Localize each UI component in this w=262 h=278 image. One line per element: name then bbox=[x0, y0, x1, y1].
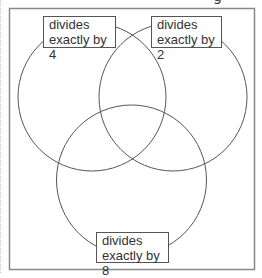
label-line-1: divides bbox=[102, 233, 168, 248]
label-divides-by-2: divides exactly by 2 bbox=[151, 16, 222, 48]
label-line-1: divides bbox=[157, 17, 221, 32]
label-divides-by-8: divides exactly by 8 bbox=[96, 232, 169, 263]
label-line-2: exactly by 8 bbox=[102, 248, 168, 278]
label-divides-by-4: divides exactly by 4 bbox=[43, 16, 116, 48]
label-line-2: exactly by 2 bbox=[157, 32, 221, 62]
label-line-1: divides bbox=[49, 17, 115, 32]
label-line-2: exactly by 4 bbox=[49, 32, 115, 62]
